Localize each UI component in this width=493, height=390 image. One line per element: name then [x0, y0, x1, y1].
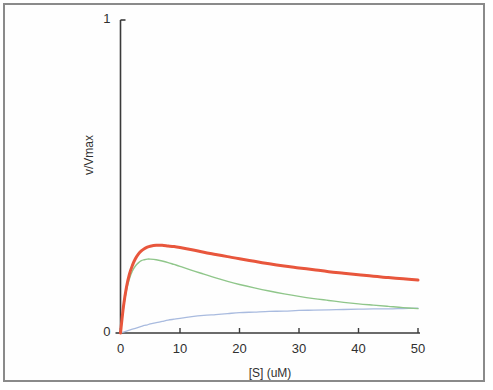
- x-axis-title: [S] (uM): [120, 366, 420, 380]
- y-axis-tick-label: 1: [69, 11, 111, 26]
- y-axis-title: v/Vmax: [82, 115, 96, 195]
- series-line-blue-curve: [121, 308, 419, 333]
- figure-container: v/Vmax [S] (uM) 0102030405001: [0, 0, 493, 390]
- x-axis-tick-label: 0: [96, 341, 146, 356]
- x-axis-tick-label: 20: [215, 341, 265, 356]
- series-line-green-curve: [121, 259, 419, 333]
- y-axis-tick-label: 0: [69, 324, 111, 339]
- plot-area: v/Vmax [S] (uM) 0102030405001: [0, 0, 493, 390]
- x-axis-tick-label: 30: [274, 341, 324, 356]
- x-axis-tick-label: 50: [393, 341, 443, 356]
- series-line-red-curve: [121, 245, 419, 333]
- x-axis-tick-label: 10: [155, 341, 205, 356]
- x-axis-tick-label: 40: [334, 341, 384, 356]
